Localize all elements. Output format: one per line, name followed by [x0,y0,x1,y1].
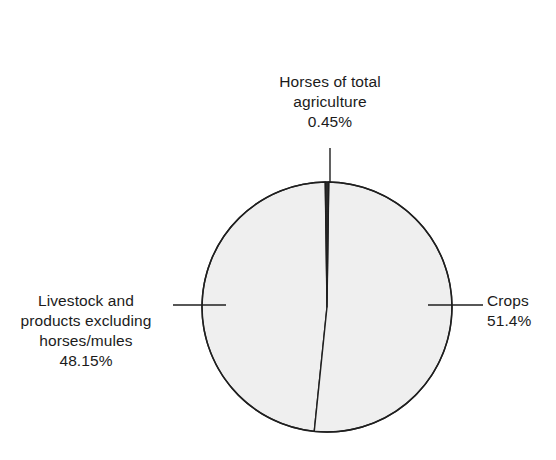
pie-chart-graphic [0,0,556,460]
slice-label-livestock-line2: products excluding [0,311,172,331]
slice-label-horses: Horses of total agriculture 0.45% [230,72,430,132]
slice-label-horses-line1: Horses of total [230,72,430,92]
slice-value-horses: 0.45% [230,112,430,132]
slice-label-livestock-line3: horses/mules [0,331,172,351]
pie-chart-figure: Horses of total agriculture 0.45% Livest… [0,0,556,460]
slice-label-horses-line2: agriculture [230,92,430,112]
pie-slice-livestock[interactable] [202,182,327,431]
pie-slice-crops[interactable] [314,182,452,432]
slice-label-livestock: Livestock and products excluding horses/… [0,291,172,371]
slice-label-livestock-line1: Livestock and [0,291,172,311]
slice-value-crops: 51.4% [487,311,556,331]
slice-label-crops: Crops 51.4% [487,291,556,331]
slice-value-livestock: 48.15% [0,351,172,371]
slice-label-crops-line1: Crops [487,291,556,311]
